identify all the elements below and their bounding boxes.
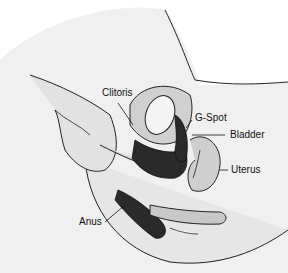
anatomical-diagram: Clitoris G-Spot Bladder Uterus Anus xyxy=(0,0,288,273)
label-anus: Anus xyxy=(79,217,102,227)
label-uterus: Uterus xyxy=(231,165,260,175)
label-clitoris: Clitoris xyxy=(102,88,133,98)
label-bladder: Bladder xyxy=(230,130,264,140)
label-g-spot: G-Spot xyxy=(195,113,227,123)
